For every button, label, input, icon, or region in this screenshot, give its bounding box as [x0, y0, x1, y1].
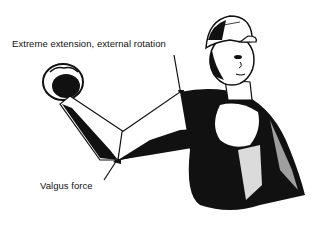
- pitcher-drawing: [0, 0, 335, 226]
- extension-rotation-label: Extreme extension, external rotation: [12, 38, 166, 49]
- valgus-force-label: Valgus force: [40, 180, 93, 191]
- illustration-canvas: Extreme extension, external rotation Val…: [0, 0, 335, 226]
- fist-with-ball: [43, 64, 83, 100]
- torso: [180, 89, 305, 210]
- forearm: [60, 96, 124, 160]
